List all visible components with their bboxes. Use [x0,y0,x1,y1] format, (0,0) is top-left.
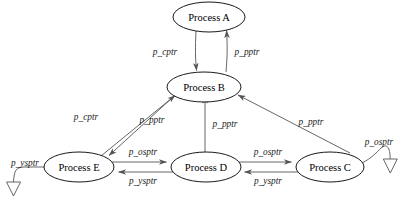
null-terminator-left-arrowhead [7,182,21,196]
node-process-e[interactable]: Process E [44,152,114,182]
edge-label-e-b-up: p_pptr [139,115,165,125]
node-process-e-label: Process E [58,162,99,173]
node-process-c[interactable]: Process C [296,152,364,182]
edge-label-a-b-down: p_cptr [152,47,178,57]
edge-c-to-null-right [362,146,397,173]
node-process-c-label: Process C [309,162,351,173]
node-process-a[interactable]: Process A [173,2,245,32]
edge-e-to-null-left [7,167,47,196]
edge-label-d-e-left: p_ysptr [128,176,157,186]
edge-label-c-null: p_osptr [364,137,394,147]
edge-label-d-b-up: p_pptr [212,119,238,129]
edge-label-d-c-right: p_osptr [253,147,283,157]
edge-label-b-e-down: p_cptr [73,112,99,122]
node-process-b[interactable]: Process B [167,72,241,102]
edge-label-e-null: p_ysptr [10,158,39,168]
edge-label-c-d-left: p_ysptr [253,176,282,186]
node-process-b-label: Process B [183,82,225,93]
diagram-canvas: Process A Process B Process E Process D … [0,0,402,213]
edge-c-to-b [238,95,350,153]
edge-label-b-a-up: p_pptr [234,47,260,57]
edge-label-c-b-up: p_pptr [298,117,324,127]
edge-a-to-b [195,31,196,71]
edge-b-to-a [226,31,227,73]
node-process-d[interactable]: Process D [171,152,241,182]
node-process-d-label: Process D [185,162,228,173]
process-pointer-diagram: Process A Process B Process E Process D … [0,0,402,213]
edge-label-e-d-right: p_osptr [128,147,158,157]
null-terminator-right-arrowhead [383,159,397,173]
node-process-a-label: Process A [188,12,230,23]
